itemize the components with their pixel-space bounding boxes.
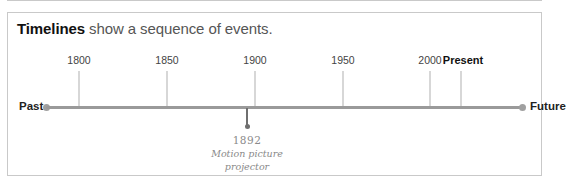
future-dot	[519, 104, 526, 111]
event-dot	[245, 124, 250, 129]
timeline-axis	[46, 106, 523, 109]
event-year: 1892	[211, 134, 283, 147]
tick-label-present: Present	[443, 54, 483, 66]
tick-1950	[342, 71, 344, 107]
tick-label-1950: 1950	[331, 54, 354, 66]
title-bold: Timelines	[17, 20, 85, 37]
event-label: 1892 Motion picture projector	[211, 134, 283, 173]
tick-1800	[78, 71, 80, 107]
title-rest: show a sequence of events.	[85, 20, 272, 37]
future-label: Future	[530, 100, 566, 112]
tick-2000	[429, 71, 431, 107]
tick-label-1900: 1900	[243, 54, 266, 66]
tick-1900	[254, 71, 256, 107]
past-label: Past	[19, 100, 43, 112]
tick-label-1850: 1850	[155, 54, 178, 66]
event-desc-line2: projector	[211, 160, 283, 173]
previous-panel-edge	[7, 0, 542, 1]
tick-present	[460, 71, 462, 107]
event-desc-line1: Motion picture	[211, 147, 283, 160]
tick-label-1800: 1800	[67, 54, 90, 66]
tick-1850	[166, 71, 168, 107]
tick-label-2000: 2000	[418, 54, 441, 66]
timeline-panel: Timelines show a sequence of events. 180…	[7, 12, 542, 176]
panel-title: Timelines show a sequence of events.	[17, 20, 272, 37]
